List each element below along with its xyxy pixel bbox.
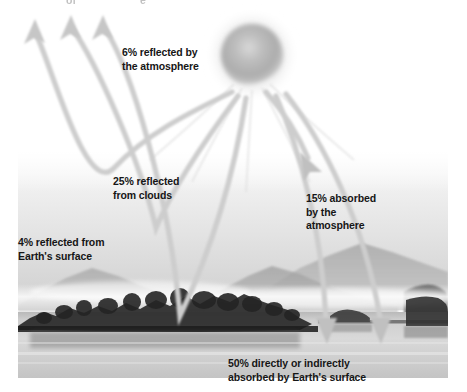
arrowhead-up-1 xyxy=(24,19,45,44)
label-clouds-reflected: 25% reflected from clouds xyxy=(113,175,179,202)
label-atmosphere-reflected: 6% reflected by the atmosphere xyxy=(122,46,199,73)
sun xyxy=(206,9,298,101)
diagram-canvas xyxy=(0,0,467,392)
solar-radiation-diagram: of e xyxy=(0,0,467,392)
label-surface-absorbed: 50% directly or indirectly absorbed by E… xyxy=(228,357,366,384)
arrowhead-up-3 xyxy=(92,15,113,40)
landscape-photo xyxy=(18,150,450,378)
label-atmosphere-absorbed: 15% absorbed by the atmosphere xyxy=(306,192,376,233)
arrowhead-up-2 xyxy=(60,15,81,40)
label-surface-reflected: 4% reflected from Earth's surface xyxy=(18,236,104,263)
